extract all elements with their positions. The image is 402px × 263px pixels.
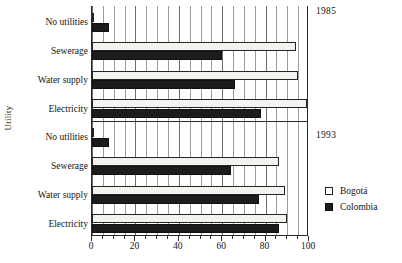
x-axis-tick: [297, 236, 298, 239]
panel-divider: [92, 121, 307, 122]
bar-bogot-water-supply: [92, 186, 285, 195]
x-axis-tick: [232, 236, 233, 239]
x-axis-tick: [275, 236, 276, 239]
x-axis-tick: [167, 236, 168, 239]
x-axis-tick: [124, 236, 125, 239]
x-axis-tick: [102, 236, 103, 239]
year-label-1985: 1985: [316, 6, 336, 16]
x-axis-tick: [200, 236, 201, 239]
category-label-electricity: Electricity: [0, 219, 88, 229]
bar-colombia-water-supply: [92, 80, 235, 89]
open-square-swatch: [325, 187, 333, 195]
legend-item-colombia: Colombia: [325, 199, 377, 215]
bar-colombia-electricity: [92, 224, 279, 233]
bar-colombia-no-utilities: [92, 138, 109, 147]
x-axis-tick-label: 100: [291, 241, 325, 251]
category-label-sewerage: Sewerage: [0, 46, 88, 56]
category-label-electricity: Electricity: [0, 104, 88, 114]
legend-label: Bogotá: [340, 186, 367, 196]
bar-bogot-electricity: [92, 99, 307, 108]
bar-bogot-sewerage: [92, 157, 279, 166]
x-axis-tick: [243, 236, 244, 239]
category-label-water-supply: Water supply: [0, 190, 88, 200]
x-axis-tick: [145, 236, 146, 239]
category-label-water-supply: Water supply: [0, 75, 88, 85]
bar-bogot-electricity: [92, 214, 287, 223]
x-axis-tick-label: 40: [161, 241, 195, 251]
legend-item-bogot: Bogotá: [325, 183, 377, 199]
bar-colombia-sewerage: [92, 166, 231, 175]
bar-colombia-sewerage: [92, 51, 222, 60]
chart-legend: BogotáColombia: [325, 183, 377, 215]
legend-label: Colombia: [340, 202, 377, 212]
filled-square-swatch: [325, 203, 333, 211]
bar-bogot-no-utilities: [92, 13, 94, 22]
x-axis-tick-label: 80: [248, 241, 282, 251]
category-label-no-utilities: No utilities: [0, 17, 88, 27]
year-label-1993: 1993: [316, 130, 336, 140]
x-axis-tick: [254, 236, 255, 239]
x-axis-tick: [210, 236, 211, 239]
bar-colombia-electricity: [92, 109, 261, 118]
category-axis-labels: No utilitiesSewerageWater supplyElectric…: [0, 0, 88, 263]
x-axis-tick: [156, 236, 157, 239]
x-axis-tick-label: 60: [204, 241, 238, 251]
plot-area: [91, 6, 308, 236]
x-axis-tick-labels: 020406080100: [91, 241, 308, 255]
chart-figure: Utility No utilitiesSewerageWater supply…: [0, 0, 402, 263]
x-axis-tick: [189, 236, 190, 239]
x-axis-tick-label: 20: [117, 241, 151, 251]
category-label-sewerage: Sewerage: [0, 161, 88, 171]
bar-bogot-water-supply: [92, 71, 298, 80]
x-axis-tick-label: 0: [74, 241, 108, 251]
category-label-no-utilities: No utilities: [0, 132, 88, 142]
bar-colombia-no-utilities: [92, 23, 109, 32]
bar-bogot-no-utilities: [92, 128, 94, 137]
x-axis-tick: [286, 236, 287, 239]
x-axis-tick: [113, 236, 114, 239]
bar-bogot-sewerage: [92, 42, 296, 51]
bar-colombia-water-supply: [92, 195, 259, 204]
